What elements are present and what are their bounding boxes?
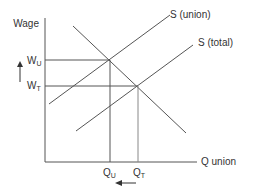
demand-curve xyxy=(73,26,186,133)
y-axis-label: Wage xyxy=(13,18,39,29)
wage-up-arrow-icon xyxy=(17,61,23,82)
x-axis-label: Q union xyxy=(201,156,236,167)
wu-label: WU xyxy=(27,55,42,67)
quantity-left-arrow-icon xyxy=(115,180,136,186)
qu-label: QU xyxy=(103,167,116,179)
supply-total-curve xyxy=(76,45,193,131)
supply-union-label: S (union) xyxy=(170,9,211,20)
supply-total-label: S (total) xyxy=(198,37,233,48)
labor-market-diagram: Wage Q union S (union) S (total) WU WT Q… xyxy=(0,0,254,195)
qt-label: QT xyxy=(133,167,146,179)
wt-label: WT xyxy=(27,80,41,92)
